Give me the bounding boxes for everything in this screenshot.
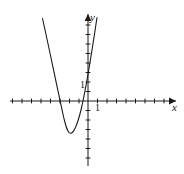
x-axis-unit-label: 1 [95, 103, 100, 113]
coordinate-plot [0, 0, 184, 174]
y-axis-unit-label: 1 [80, 80, 85, 90]
parabola-graph-figure: y x 1 1 [0, 0, 184, 174]
x-axis-label: x [172, 102, 177, 113]
y-axis-label: y [90, 12, 95, 23]
